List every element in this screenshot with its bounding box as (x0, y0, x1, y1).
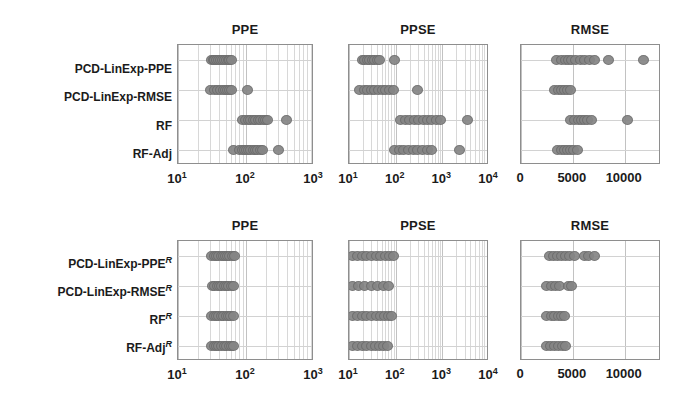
data-point (560, 341, 571, 351)
gridline-vertical (470, 241, 471, 359)
gridline-vertical (385, 45, 386, 163)
gridline-horizontal (178, 346, 312, 347)
gridline-horizontal (521, 150, 659, 151)
data-point (638, 55, 649, 65)
gridline-vertical (266, 241, 267, 359)
gridline-vertical (307, 241, 308, 359)
data-point (589, 251, 600, 261)
row-label-top-0: PCD-LinExp-PPE (75, 60, 172, 76)
data-point (242, 85, 253, 95)
gridline-vertical (435, 241, 436, 359)
x-tick-label: 104 (478, 170, 497, 186)
data-point (565, 85, 576, 95)
gridline-vertical (465, 45, 466, 163)
row-label-text: PCD-LinExp-PPE (68, 257, 165, 271)
gridline-vertical (487, 45, 488, 163)
gridline-vertical (287, 241, 288, 359)
data-point (281, 115, 292, 125)
gridline-vertical (440, 241, 441, 359)
x-tick-label: 0 (516, 170, 523, 185)
gridline-vertical (435, 45, 436, 163)
row-label-sup: R (166, 311, 173, 321)
gridline-horizontal (178, 316, 312, 317)
x-tick-label: 5000 (557, 170, 586, 185)
row-label-text: PCD-LinExp-PPE (75, 62, 172, 76)
gridline-vertical (239, 241, 240, 359)
row-label-bottom-2: RFR (150, 311, 173, 327)
gridline-vertical (482, 241, 483, 359)
gridline-vertical (178, 45, 179, 163)
data-point (566, 281, 577, 291)
row-label-top-1: PCD-LinExp-RMSE (64, 88, 172, 104)
data-point (374, 55, 385, 65)
row-label-text: RF-Adj (126, 341, 165, 355)
row-label-sup: R (166, 283, 173, 293)
data-point (586, 115, 597, 125)
x-tick-label: 101 (338, 170, 357, 186)
panel-title: PPE (177, 22, 313, 37)
x-tick-label: 102 (235, 170, 254, 186)
gridline-vertical (484, 45, 485, 163)
gridline-vertical (482, 45, 483, 163)
data-point (257, 145, 268, 155)
x-tick-label: 101 (167, 366, 186, 382)
row-label-text: RF (156, 119, 172, 133)
x-tick-label: 5000 (557, 366, 586, 381)
panel-title: RMSE (520, 218, 660, 233)
panel-bottom-ppse: PPSE101102103104 (348, 240, 488, 360)
x-tick-label: 10000 (606, 170, 642, 185)
row-label-text: RF (150, 313, 166, 327)
plot-area (348, 44, 488, 164)
data-point (226, 55, 237, 65)
data-point (228, 311, 239, 321)
plot-area (348, 240, 488, 360)
gridline-vertical (470, 45, 471, 163)
data-point (589, 55, 600, 65)
data-point (228, 281, 239, 291)
gridline-vertical (428, 241, 429, 359)
x-tick-label: 0 (516, 366, 523, 381)
row-label-text: PCD-LinExp-RMSE (58, 285, 166, 299)
x-tick-label: 101 (167, 170, 186, 186)
gridline-vertical (294, 241, 295, 359)
data-point (435, 115, 446, 125)
gridline-vertical (432, 241, 433, 359)
gridline-vertical (266, 45, 267, 163)
data-point (572, 145, 583, 155)
gridline-vertical (198, 45, 199, 163)
gridline-horizontal (521, 90, 659, 91)
gridline-vertical (178, 241, 179, 359)
panel-top-ppe: PPE101102103 (177, 44, 313, 164)
row-label-text: PCD-LinExp-RMSE (64, 90, 172, 104)
gridline-vertical (198, 241, 199, 359)
gridline-vertical (311, 45, 312, 163)
row-label-sup: R (166, 339, 173, 349)
data-point (603, 55, 614, 65)
x-tick-label: 10000 (606, 366, 642, 381)
gridline-vertical (299, 241, 300, 359)
gridline-vertical (299, 45, 300, 163)
gridline-vertical (456, 241, 457, 359)
data-point (389, 55, 400, 65)
data-point (622, 115, 633, 125)
gridline-vertical (303, 241, 304, 359)
data-point (412, 85, 423, 95)
plot-area (177, 44, 313, 164)
plot-area (520, 240, 660, 360)
panel-top-ppse: PPSE101102103104 (348, 44, 488, 164)
x-tick-label: 103 (432, 366, 451, 382)
row-label-sup: R (166, 255, 173, 265)
gridline-vertical (479, 45, 480, 163)
panel-top-rmse: RMSE0500010000 (520, 44, 660, 164)
gridline-vertical (521, 45, 522, 163)
panel-title: RMSE (520, 22, 660, 37)
panel-title: PPSE (348, 218, 488, 233)
data-point (388, 85, 399, 95)
gridline-vertical (287, 45, 288, 163)
gridline-vertical (442, 45, 443, 163)
gridline-horizontal (178, 60, 312, 61)
x-tick-label: 103 (303, 170, 322, 186)
gridline-vertical (625, 241, 626, 359)
gridline-vertical (487, 241, 488, 359)
row-label-bottom-0: PCD-LinExp-PPER (68, 255, 172, 271)
